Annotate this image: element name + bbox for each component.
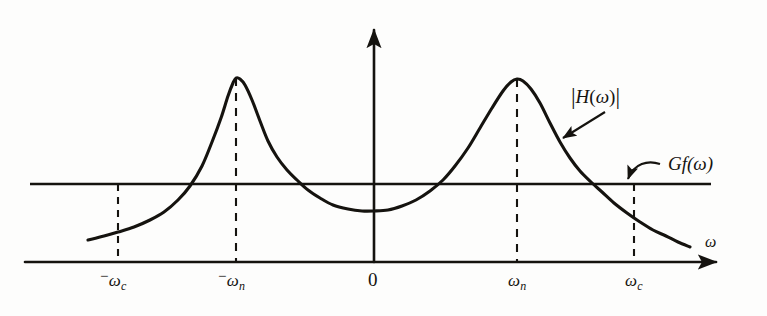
noise-spectrum-arg: ω	[693, 153, 706, 174]
tick-symbol-omega-n: ω	[508, 271, 520, 290]
figure-container: ω −ωc −ωn 0 ωn ωc |H(ω)| Gf(ω)	[0, 0, 767, 316]
abs-bar-right: |	[615, 84, 620, 109]
tick-sign-neg-omega-n: −	[218, 268, 227, 284]
transfer-function-symbol: H	[576, 86, 590, 107]
origin-label: 0	[368, 270, 378, 289]
transfer-function-arg: ω	[596, 86, 609, 107]
noise-spectrum-label: Gf(ω)	[668, 154, 713, 173]
tick-symbol-neg-omega-c: ω	[109, 271, 121, 290]
tick-subscript-omega-n: n	[520, 279, 526, 293]
abs-bar-left: |	[571, 84, 576, 109]
plot-canvas	[0, 0, 767, 316]
tick-sign-neg-omega-c: −	[100, 268, 109, 284]
transfer-function-label: |H(ω)|	[571, 84, 620, 107]
h-omega-annotation-arrow	[563, 112, 605, 138]
tick-symbol-neg-omega-n: ω	[227, 271, 239, 290]
noise-spectrum-symbol: Gf	[668, 153, 687, 174]
tick-label-omega-n: ωn	[508, 272, 526, 289]
tick-symbol-omega-c: ω	[625, 271, 637, 290]
x-axis-variable-label: ω	[705, 234, 716, 250]
tick-subscript-omega-c: c	[637, 279, 643, 293]
gf-omega-annotation-arrow	[628, 162, 660, 179]
noise-spectrum-close-paren: )	[707, 153, 713, 174]
tick-subscript-neg-omega-c: c	[121, 279, 127, 293]
tick-subscript-neg-omega-n: n	[239, 279, 245, 293]
tick-label-neg-omega-c: −ωc	[100, 272, 126, 289]
tick-label-omega-c: ωc	[625, 272, 643, 289]
tick-label-neg-omega-n: −ωn	[218, 272, 245, 289]
